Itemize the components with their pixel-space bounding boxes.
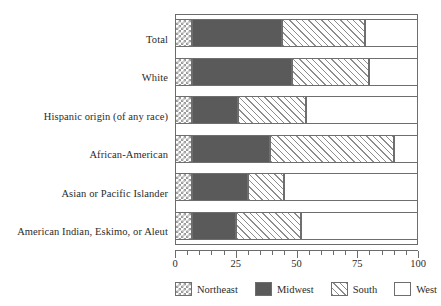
- x-axis-minor-tick: [333, 251, 334, 255]
- legend-label: West: [416, 284, 437, 295]
- bar-row: [175, 173, 418, 201]
- bar-segment-west: [284, 173, 418, 201]
- legend-item-midwest[interactable]: Midwest: [255, 282, 314, 296]
- x-axis-minor-tick: [199, 251, 200, 255]
- x-axis-minor-tick: [224, 251, 225, 255]
- bar-track: [175, 96, 418, 124]
- legend-item-northeast[interactable]: Northeast: [175, 282, 238, 296]
- category-label: Hispanic origin (of any race): [0, 111, 168, 122]
- bar-segment-midwest: [192, 212, 236, 240]
- bar-segment-northeast: [175, 19, 192, 47]
- bar-segment-west: [306, 96, 418, 124]
- x-axis-tick-label: 25: [231, 258, 242, 269]
- legend-swatch-midwest-icon: [255, 282, 272, 296]
- bar-segment-northeast: [175, 135, 192, 163]
- x-axis-minor-tick: [272, 251, 273, 255]
- bar-segment-south: [270, 135, 394, 163]
- legend-swatch-south-icon: [331, 282, 348, 296]
- category-label: American Indian, Eskimo, or Aleut: [0, 226, 168, 237]
- x-axis-minor-tick: [345, 251, 346, 255]
- stacked-bar-chart: TotalWhiteHispanic origin (of any race)A…: [0, 0, 441, 306]
- bar-segment-west: [365, 19, 418, 47]
- bar-segment-northeast: [175, 58, 192, 86]
- bar-track: [175, 212, 418, 240]
- bar-track: [175, 58, 418, 86]
- x-axis-major-tick: [236, 251, 237, 258]
- x-axis-tick-label: 100: [410, 258, 426, 269]
- x-axis-minor-tick: [284, 251, 285, 255]
- category-label: Asian or Pacific Islander: [0, 188, 168, 199]
- x-axis-major-tick: [175, 251, 176, 258]
- category-label: African-American: [0, 149, 168, 160]
- bar-segment-south: [238, 96, 306, 124]
- bar-row: [175, 96, 418, 124]
- x-axis-minor-tick: [406, 251, 407, 255]
- bar-segment-west: [369, 58, 418, 86]
- legend-item-south[interactable]: South: [331, 282, 378, 296]
- legend-label: Midwest: [277, 284, 314, 295]
- x-axis-minor-tick: [382, 251, 383, 255]
- x-axis-tick-label: 75: [352, 258, 363, 269]
- x-axis-tick-label: 50: [291, 258, 302, 269]
- bar-row: [175, 19, 418, 47]
- bar-segment-south: [282, 19, 365, 47]
- category-axis-labels: TotalWhiteHispanic origin (of any race)A…: [0, 20, 168, 245]
- chart-legend: NortheastMidwestSouthWest: [175, 279, 437, 299]
- legend-label: Northeast: [197, 284, 238, 295]
- x-axis-minor-tick: [394, 251, 395, 255]
- x-axis-minor-tick: [248, 251, 249, 255]
- bar-segment-west: [394, 135, 418, 163]
- x-axis-minor-tick: [309, 251, 310, 255]
- x-axis: [175, 250, 418, 258]
- x-axis-minor-tick: [369, 251, 370, 255]
- bar-segment-south: [236, 212, 302, 240]
- bar-track: [175, 173, 418, 201]
- x-axis-minor-tick: [321, 251, 322, 255]
- bar-row: [175, 58, 418, 86]
- bar-segment-northeast: [175, 173, 192, 201]
- category-label: Total: [0, 34, 168, 45]
- bar-segment-midwest: [192, 173, 248, 201]
- x-axis-major-tick: [297, 251, 298, 258]
- x-axis-major-tick: [357, 251, 358, 258]
- x-axis-minor-tick: [260, 251, 261, 255]
- bar-track: [175, 135, 418, 163]
- legend-label: South: [353, 284, 378, 295]
- bar-segment-midwest: [192, 135, 270, 163]
- x-axis-major-tick: [418, 251, 419, 258]
- bar-segment-midwest: [192, 19, 282, 47]
- bar-segment-northeast: [175, 212, 192, 240]
- bar-row: [175, 135, 418, 163]
- bars-layer: [175, 14, 418, 245]
- bar-segment-midwest: [192, 96, 238, 124]
- x-axis-minor-tick: [211, 251, 212, 255]
- bar-segment-south: [292, 58, 370, 86]
- bar-segment-northeast: [175, 96, 192, 124]
- bar-segment-midwest: [192, 58, 292, 86]
- x-axis-minor-tick: [187, 251, 188, 255]
- legend-swatch-west-icon: [394, 282, 411, 296]
- legend-swatch-northeast-icon: [175, 282, 192, 296]
- bar-row: [175, 212, 418, 240]
- legend-item-west[interactable]: West: [394, 282, 437, 296]
- category-label: White: [0, 72, 168, 83]
- bar-segment-south: [248, 173, 284, 201]
- bar-segment-west: [301, 212, 418, 240]
- x-axis-tick-label: 0: [172, 258, 177, 269]
- bar-track: [175, 19, 418, 47]
